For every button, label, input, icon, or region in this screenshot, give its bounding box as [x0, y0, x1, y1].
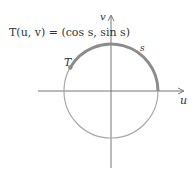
u-axis-label: u: [180, 94, 187, 107]
unit-circle-diagram: T(u, v) = (cos s, sin s) T s u v: [0, 0, 196, 173]
v-axis-label: v: [100, 11, 106, 22]
formula-label: T(u, v) = (cos s, sin s): [9, 26, 130, 39]
arc-s-label: s: [140, 43, 145, 53]
arc-s: [70, 44, 158, 91]
